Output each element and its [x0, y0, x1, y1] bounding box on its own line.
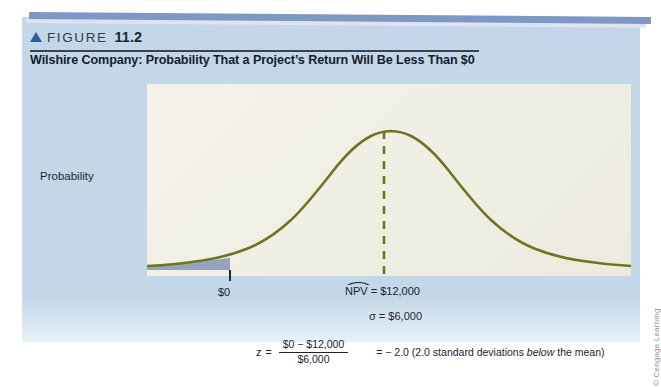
- caption-divider: [30, 50, 479, 52]
- y-axis-label: Probability: [40, 170, 94, 182]
- equation-numerator: $0 − $12,000: [279, 339, 349, 352]
- normal-curve: [147, 131, 631, 266]
- figure-caption: Wilshire Company: Probability That a Pro…: [30, 53, 530, 67]
- label-threshold-zero: $0: [218, 286, 230, 298]
- equation-result-emphasis: below: [527, 346, 554, 358]
- z-score-equation: z = $0 − $12,000 $6,000 = − 2.0 (2.0 sta…: [256, 339, 605, 366]
- sigma-symbol: σ: [369, 310, 376, 322]
- figure-label-word: FIGURE: [47, 30, 108, 45]
- label-standard-deviation: σ = $6,000: [369, 310, 422, 322]
- equation-fraction: $0 − $12,000 $6,000: [279, 339, 349, 366]
- equation-result: = − 2.0 (2.0 standard deviations below t…: [376, 346, 604, 358]
- sigma-value: $6,000: [388, 310, 422, 322]
- equation-result-tail: the mean): [554, 346, 604, 358]
- equation-variable: z: [256, 346, 262, 358]
- figure-number: 11.2: [115, 29, 142, 45]
- page-background-fade: [22, 296, 640, 342]
- equation-equals-first: =: [266, 346, 272, 358]
- npv-hat-group: NPV = $12,000: [345, 285, 420, 297]
- label-mean-npv: NPV = $12,000: [345, 285, 420, 297]
- normal-distribution-chart: [147, 84, 631, 284]
- figure-label: FIGURE 11.2: [30, 29, 142, 45]
- shaded-tail-region: [147, 258, 230, 270]
- up-triangle-icon: [30, 32, 42, 42]
- equation-denominator: $6,000: [293, 353, 333, 366]
- equation-result-lead: = − 2.0 (2.0 standard deviations: [376, 346, 527, 358]
- copyright-notice: © Cengage Learning: [652, 296, 661, 387]
- label-mean-npv-text: NPV = $12,000: [345, 285, 420, 297]
- circumflex-hat-icon: [345, 278, 372, 285]
